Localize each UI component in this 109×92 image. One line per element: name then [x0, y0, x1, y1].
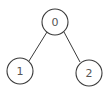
edges — [29, 32, 80, 62]
tree-node-1: 1 — [7, 58, 33, 84]
edge-0-1 — [29, 32, 47, 61]
tree-node-2: 2 — [76, 60, 102, 86]
node-label: 0 — [52, 16, 59, 29]
edge-0-2 — [64, 32, 80, 62]
node-label: 1 — [17, 65, 24, 78]
tree-node-0: 0 — [42, 9, 68, 35]
tree-diagram: 0 1 2 — [0, 0, 109, 92]
node-label: 2 — [86, 67, 93, 80]
